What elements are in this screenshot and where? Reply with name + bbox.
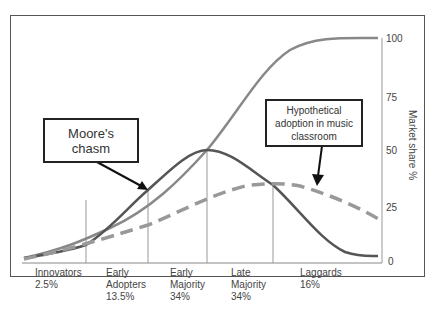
hypo-arrowhead (312, 174, 324, 186)
category-late-majority: Late Majority 34% (231, 267, 266, 303)
y-axis-label: Market share % (407, 110, 418, 180)
chasm-arrow (97, 162, 143, 187)
y-tick-100: 100 (386, 33, 403, 44)
category-innovators: Innovators 2.5% (35, 267, 82, 291)
hypo-arrow (318, 146, 322, 176)
moores-chasm-callout: Moore's chasm (43, 118, 139, 163)
category-early-adopters: Early Adopters 13.5% (106, 267, 146, 303)
y-tick-25: 25 (386, 202, 397, 213)
moores-chasm-text: Moore's chasm (68, 126, 114, 156)
category-early-majority: Early Majority 34% (170, 267, 205, 303)
hypothetical-text: Hypothetical adoption in music classroom (275, 104, 353, 143)
y-tick-50: 50 (386, 145, 397, 156)
category-laggards: Laggards 16% (300, 267, 342, 291)
y-tick-0: 0 (388, 256, 394, 267)
hypothetical-callout: Hypothetical adoption in music classroom (265, 99, 363, 147)
y-tick-75: 75 (386, 92, 397, 103)
